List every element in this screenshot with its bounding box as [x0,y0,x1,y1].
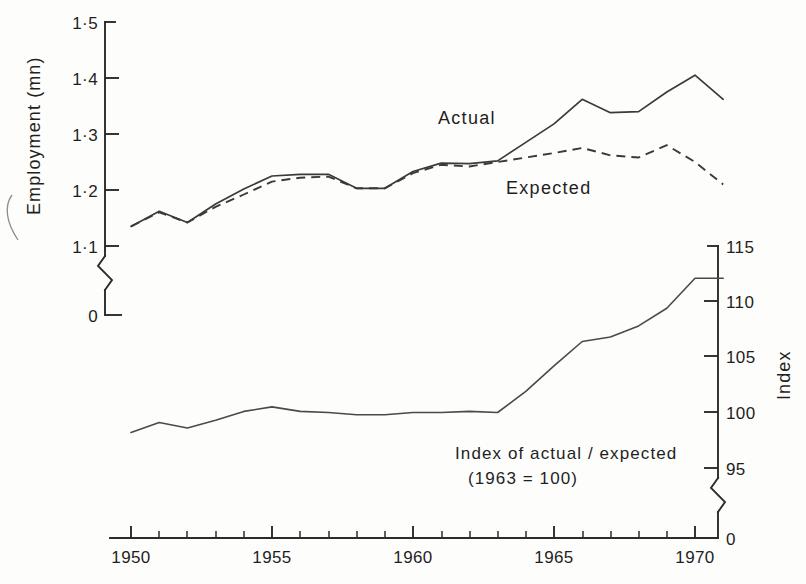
bottom-ticklabel-1955: 1955 [252,548,291,567]
index-caption-line-1: Index of actual / expected [455,444,677,463]
series-label-expected: Expected [506,178,591,198]
left-axis-title: Employment (mn) [24,56,44,215]
chart-canvas: 1·5 1·4 1·3 1·2 1·1 0 Employment (mn) 11… [0,0,806,584]
right-ticklabel-95: 95 [726,460,746,479]
bottom-ticklabel-1950: 1950 [111,548,150,567]
right-ticklabel-zero: 0 [726,530,736,549]
series-line-index [131,278,723,432]
left-ticklabel-1-1: 1·1 [72,238,98,257]
left-ticklabel-1-4: 1·4 [72,70,98,89]
series-line-expected [131,145,723,226]
right-ticklabel-105: 105 [726,348,756,367]
right-ticklabel-100: 100 [726,404,756,423]
bottom-ticklabel-1965: 1965 [534,548,573,567]
right-axis-group: 115 110 105 100 95 0 Index [704,238,794,549]
right-axis-break-symbol [711,478,725,512]
bottom-ticklabel-1960: 1960 [393,548,432,567]
right-ticklabel-110: 110 [726,293,754,312]
left-ticklabel-1-3: 1·3 [72,126,98,145]
series-line-actual [131,75,723,226]
series-label-actual: Actual [438,108,496,128]
scan-artifact-mark [7,195,18,240]
bottom-ticklabel-1970: 1970 [675,548,714,567]
left-ticklabel-1-5: 1·5 [72,14,98,33]
right-ticklabel-115: 115 [726,238,754,257]
right-axis-title: Index [774,350,794,400]
left-ticklabel-zero: 0 [88,307,98,326]
series-group [131,75,723,432]
left-axis-break-symbol [98,256,112,290]
left-ticklabel-1-2: 1·2 [72,182,98,201]
left-axis-group: 1·5 1·4 1·3 1·2 1·1 0 Employment (mn) [24,14,122,326]
bottom-axis-group: 1950 1955 1960 1965 1970 [110,526,718,567]
index-caption-line-2: (1963 = 100) [468,469,578,488]
chart-figure: 1·5 1·4 1·3 1·2 1·1 0 Employment (mn) 11… [0,0,806,584]
